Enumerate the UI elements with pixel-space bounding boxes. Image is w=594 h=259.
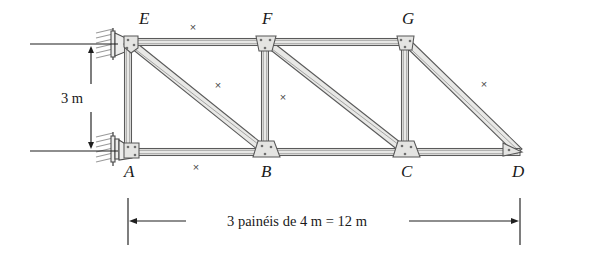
node-label-F: F (261, 9, 273, 28)
member-EA (125, 42, 132, 152)
gusset-F (256, 36, 276, 51)
node-label-E: E (138, 9, 150, 28)
member-EF (128, 39, 265, 46)
truss-figure: E F G A B C D × × × × × 3 m 3 pa (0, 0, 594, 259)
height-dimension-label: 3 m (61, 90, 84, 106)
gusset-C (393, 141, 420, 157)
gusset-A (124, 143, 139, 158)
member-EB (126, 40, 270, 154)
member-FB (262, 42, 269, 152)
member-BC (265, 149, 405, 156)
x-marker-EF: × (190, 21, 196, 33)
x-marker-AB: × (193, 161, 199, 173)
member-GD (403, 40, 522, 154)
wall-hatching-lower (96, 132, 113, 166)
node-label-C: C (401, 162, 413, 181)
gusset-G (397, 36, 414, 50)
node-label-B: B (261, 162, 272, 181)
x-marker-FB: × (280, 91, 286, 103)
span-dimension: 3 painéis de 4 m = 12 m (128, 198, 520, 245)
member-GC (402, 42, 409, 152)
member-FG (265, 39, 405, 46)
node-label-G: G (402, 9, 414, 28)
node-label-D: D (511, 162, 525, 181)
node-label-A: A (123, 162, 135, 181)
member-AB (128, 149, 265, 156)
span-dimension-label: 3 painéis de 4 m = 12 m (227, 213, 368, 229)
x-marker-EB: × (215, 79, 221, 91)
x-marker-GD: × (481, 78, 487, 90)
gusset-B (253, 141, 280, 157)
